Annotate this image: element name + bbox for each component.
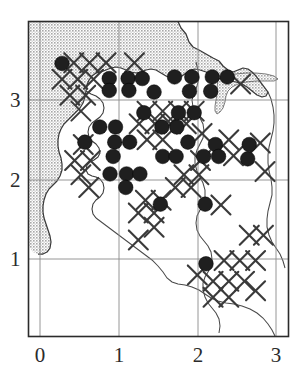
dot-marker [78,135,93,150]
dot-marker [102,83,117,98]
distribution-map-figure: 0 1 2 3 3 2 1 [0,0,308,375]
y-tick-label-2: 2 [10,170,21,191]
dot-marker [185,70,200,85]
dot-marker [107,135,122,150]
dot-marker [155,149,170,164]
x-tick-label-1: 1 [114,345,125,366]
dot-marker [220,70,235,85]
dot-marker [198,197,213,212]
dot-marker [55,56,70,71]
dot-marker [205,70,220,85]
dot-marker [171,105,186,120]
x-tick-label-2: 2 [193,345,204,366]
dot-marker [181,135,196,150]
x-tick-label-0: 0 [35,345,46,366]
dot-marker [155,120,170,135]
dot-marker [169,149,184,164]
y-tick-label-3: 3 [10,90,21,111]
dot-marker [240,152,255,167]
dot-marker [182,84,197,99]
dot-marker [119,167,134,182]
dot-marker [122,83,137,98]
dot-marker [103,167,118,182]
dot-marker [199,256,214,271]
dot-marker [203,84,218,99]
map-plot-svg [0,0,308,375]
dot-marker [167,70,182,85]
dot-marker [106,149,121,164]
dot-marker [147,85,162,100]
dot-marker [211,149,226,164]
dot-marker [133,167,148,182]
dot-marker [242,137,257,152]
y-tick-label-1: 1 [10,249,21,270]
dot-marker [135,71,150,86]
dot-marker [196,149,211,164]
x-tick-label-3: 3 [271,345,282,366]
dot-marker [108,120,123,135]
dot-marker [92,120,107,135]
dot-marker [153,197,168,212]
dot-marker [122,135,137,150]
dot-marker [118,180,133,195]
dot-marker [137,105,152,120]
dot-marker [170,120,185,135]
dot-marker [187,105,202,120]
